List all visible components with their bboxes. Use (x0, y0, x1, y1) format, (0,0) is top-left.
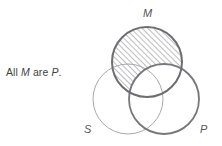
circle-label-p: P (200, 123, 208, 135)
circle-label-s: S (84, 123, 92, 135)
venn-diagram (0, 0, 222, 146)
circle-label-m: M (143, 7, 152, 19)
